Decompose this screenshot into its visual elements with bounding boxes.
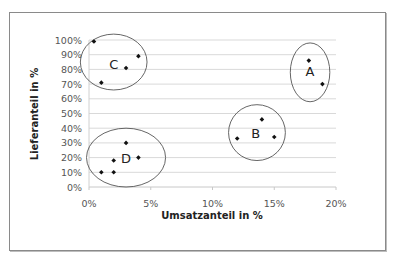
data-point (99, 170, 104, 175)
x-tick-label: 0% (81, 198, 96, 209)
y-tick-label: 90% (61, 49, 82, 60)
cluster-label-b: B (251, 126, 260, 141)
x-tick-label: 20% (325, 198, 346, 209)
data-point (320, 82, 325, 87)
y-axis-title: Lieferanteil in % (29, 68, 40, 160)
data-point (136, 155, 141, 160)
y-tick-label: 100% (55, 35, 82, 46)
x-tick-label: 5% (143, 198, 158, 209)
y-tick-label: 0% (67, 182, 82, 193)
y-tick-label: 70% (61, 79, 82, 90)
y-tick-label: 30% (61, 137, 82, 148)
cluster-label-c: C (109, 57, 118, 72)
data-points: ABCD (92, 39, 325, 174)
data-point (124, 141, 129, 146)
y-tick-label: 40% (61, 123, 82, 134)
x-tick-label: 15% (264, 198, 285, 209)
data-point (111, 170, 116, 175)
data-point (272, 135, 277, 140)
data-point (111, 158, 116, 163)
y-tick-label: 50% (61, 108, 82, 119)
y-tick-label: 80% (61, 64, 82, 75)
y-tick-label: 60% (61, 93, 82, 104)
data-point (260, 117, 265, 122)
y-axis-ticks: 0%10%20%30%40%50%60%70%80%90%100% (55, 35, 82, 193)
data-point (307, 58, 312, 63)
y-tick-label: 10% (61, 167, 82, 178)
y-tick-label: 20% (61, 152, 82, 163)
x-axis-ticks: 0%5%10%15%20% (81, 187, 346, 209)
x-tick-label: 10% (202, 198, 223, 209)
x-axis-title: Umsatzanteil in % (161, 210, 263, 221)
cluster-label-d: D (121, 151, 131, 166)
scatter-chart: 0%10%20%30%40%50%60%70%80%90%100% 0%5%10… (0, 0, 396, 265)
data-point (235, 136, 240, 141)
cluster-label-a: A (306, 64, 315, 79)
